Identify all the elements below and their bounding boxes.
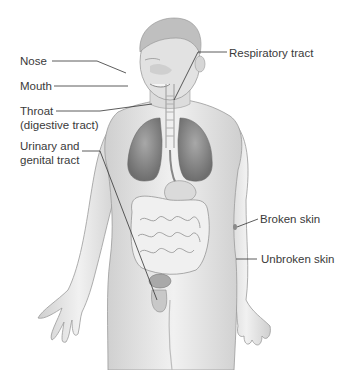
label-genital: genital tract [20, 153, 79, 167]
label-broken-skin: Broken skin [260, 212, 320, 226]
label-throat: Throat [20, 104, 53, 118]
stomach [165, 181, 196, 203]
wound-mark [233, 224, 237, 230]
label-nose: Nose [20, 54, 47, 68]
label-throat-sub: (digestive tract) [20, 118, 99, 132]
label-unbroken-skin: Unbroken skin [261, 252, 335, 266]
label-respiratory: Respiratory tract [229, 46, 313, 60]
bladder [149, 274, 171, 288]
label-urinary: Urinary and [20, 139, 79, 153]
leader-nose [52, 61, 126, 73]
label-mouth: Mouth [20, 79, 52, 93]
